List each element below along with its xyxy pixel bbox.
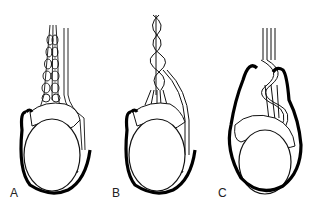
panel-a-drawing — [0, 0, 105, 207]
panel-c: C — [205, 0, 315, 207]
panel-c-label: C — [218, 186, 227, 200]
panel-a: A — [0, 0, 105, 207]
panel-b-label: B — [112, 186, 120, 200]
panel-b-drawing — [105, 0, 210, 207]
panel-b: B — [105, 0, 210, 207]
panel-a-label: A — [10, 186, 18, 200]
panel-c-drawing — [205, 0, 315, 207]
